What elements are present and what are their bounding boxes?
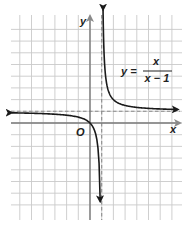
curve-left-branch [12, 113, 101, 201]
curve-right-branch [103, 10, 178, 110]
origin-label: O [76, 126, 85, 138]
equation-lhs: y = [120, 65, 137, 77]
equation-numerator: x [152, 55, 160, 67]
rational-function-graph: y x O y = x x − 1 [0, 0, 193, 234]
grid [11, 15, 182, 220]
equation-denominator: x − 1 [144, 72, 170, 84]
x-axis-label: x [169, 123, 177, 135]
y-axis-label: y [79, 15, 87, 27]
equation-label: y = x x − 1 [120, 55, 172, 84]
